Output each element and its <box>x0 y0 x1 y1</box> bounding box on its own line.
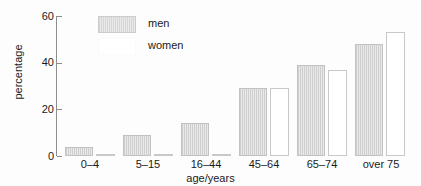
bar-women-1 <box>154 154 173 156</box>
bar-group-5 <box>355 16 405 156</box>
bar-men-2 <box>181 123 209 156</box>
bar-women-3 <box>270 88 289 156</box>
bar-women-2 <box>212 154 231 156</box>
x-tick-label-2: 16–44 <box>181 158 231 170</box>
y-tick-label-40: 40 <box>14 57 54 68</box>
y-tick-group-60: 60 <box>0 11 54 22</box>
y-tick-group-0: 0 <box>0 151 54 162</box>
bar-group-3 <box>239 16 289 156</box>
legend-swatch-men-icon <box>98 16 136 33</box>
y-tick-group-20: 20 <box>0 104 54 115</box>
x-tick-label-1: 5–15 <box>123 158 173 170</box>
bar-men-3 <box>239 88 267 156</box>
bar-men-5 <box>355 44 383 156</box>
x-axis-title: age/years <box>0 172 421 184</box>
bar-men-0 <box>65 147 93 156</box>
y-axis-title: percentage <box>12 32 24 112</box>
bar-men-1 <box>123 135 151 156</box>
x-tick-label-5: over 75 <box>353 158 409 170</box>
bar-group-0 <box>65 16 115 156</box>
bar-group-2 <box>181 16 231 156</box>
y-tick-label-60: 60 <box>14 11 54 22</box>
bar-women-5 <box>386 32 405 156</box>
y-tick-group-40: 40 <box>0 57 54 68</box>
x-tick-label-0: 0–4 <box>65 158 115 170</box>
y-tick-label-20: 20 <box>14 104 54 115</box>
x-tick-label-4: 65–74 <box>297 158 347 170</box>
y-tick-mark-0 <box>57 156 62 157</box>
legend-swatch-women-icon <box>98 38 136 55</box>
legend-label-men: men <box>148 17 169 29</box>
y-tick-label-0: 0 <box>14 151 54 162</box>
bar-women-0 <box>96 154 115 156</box>
bar-group-1 <box>123 16 173 156</box>
bar-group-4 <box>297 16 347 156</box>
legend-label-women: women <box>148 39 183 51</box>
bar-men-4 <box>297 65 325 156</box>
x-tick-label-3: 45–64 <box>239 158 289 170</box>
bar-women-4 <box>328 70 347 156</box>
bar-chart-figure: percentage 60 40 20 0 <box>0 0 421 186</box>
plot-area <box>57 16 413 156</box>
